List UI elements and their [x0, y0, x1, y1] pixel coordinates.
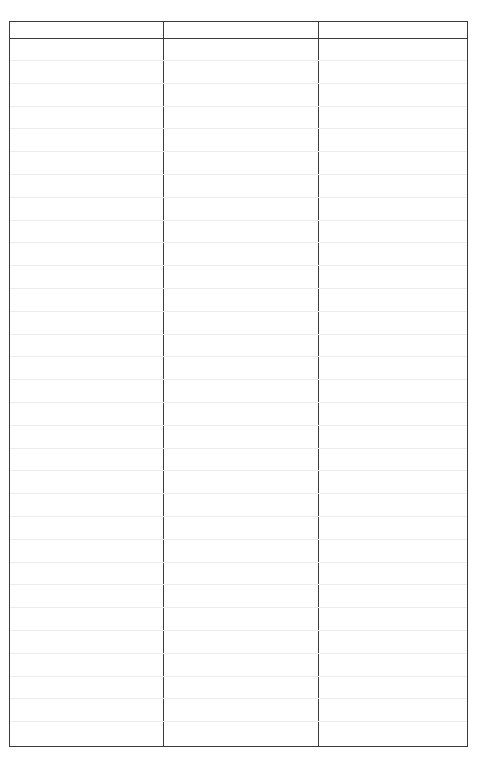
- row-rule: [10, 425, 467, 426]
- row-rule: [10, 311, 467, 312]
- blank-ruled-table: [9, 21, 468, 747]
- row-rule: [10, 493, 467, 494]
- column-divider-1: [163, 22, 164, 746]
- row-rule: [10, 653, 467, 654]
- row-rule: [10, 83, 467, 84]
- row-rule: [10, 562, 467, 563]
- row-rule: [10, 151, 467, 152]
- column-divider-2: [318, 22, 319, 746]
- row-rule: [10, 539, 467, 540]
- row-rule: [10, 356, 467, 357]
- row-rule: [10, 698, 467, 699]
- row-rule: [10, 174, 467, 175]
- row-rule: [10, 516, 467, 517]
- column-header-1: [10, 22, 163, 38]
- row-rule: [10, 402, 467, 403]
- row-rule: [10, 334, 467, 335]
- row-rule: [10, 128, 467, 129]
- row-rule: [10, 676, 467, 677]
- row-rule: [10, 721, 467, 722]
- row-rule: [10, 448, 467, 449]
- row-rule: [10, 242, 467, 243]
- header-divider: [10, 38, 467, 39]
- column-header-3: [320, 22, 468, 38]
- row-rule: [10, 60, 467, 61]
- column-header-2: [164, 22, 319, 38]
- row-rule: [10, 607, 467, 608]
- row-rule: [10, 220, 467, 221]
- row-rule: [10, 197, 467, 198]
- row-rule: [10, 288, 467, 289]
- row-rule: [10, 106, 467, 107]
- row-rule: [10, 630, 467, 631]
- row-rule: [10, 379, 467, 380]
- row-rule: [10, 265, 467, 266]
- row-rule: [10, 470, 467, 471]
- row-rule: [10, 584, 467, 585]
